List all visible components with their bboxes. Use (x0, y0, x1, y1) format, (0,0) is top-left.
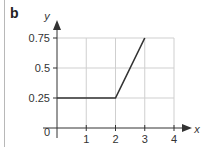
y-tick-label: 0.25 (29, 92, 50, 104)
y-axis-title: y (43, 10, 51, 22)
origin-label: 0 (44, 126, 50, 138)
ticks (53, 38, 174, 131)
x-tick-label: 4 (171, 133, 177, 145)
grid-lines (57, 38, 174, 128)
y-tick-label: 0.5 (35, 62, 50, 74)
x-tick-label: 1 (83, 133, 89, 145)
y-axis-arrow-icon (53, 20, 61, 30)
x-axis-arrow-icon (182, 124, 192, 132)
x-axis-title: x (193, 123, 200, 135)
line-chart: 12340.250.50.750xy (0, 0, 208, 147)
y-tick-label: 0.75 (29, 32, 50, 44)
x-tick-label: 2 (112, 133, 118, 145)
x-tick-label: 3 (142, 133, 148, 145)
